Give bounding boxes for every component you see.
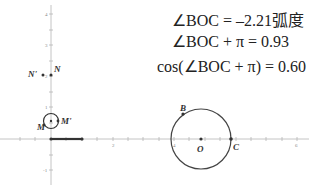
y-tick-label-2: 2 [45,74,48,79]
label-M-prime: M' [60,116,72,126]
formula-angle-plus-pi: ∠BOC + π = 0.93 [172,34,289,50]
point-O[interactable] [199,137,202,140]
point-M-prime[interactable] [57,120,60,123]
geometry-canvas[interactable]: 2 4 6 4 3 2 1 -1 M M' N N' O B C [0,0,309,194]
point-N-prime[interactable] [42,74,45,77]
y-tick-label-4: 4 [45,12,48,17]
label-B: B [179,103,186,113]
y-tick-label-neg1: -1 [43,168,48,173]
formula-angle-boc: ∠BOC = –2.21弧度 [172,13,304,29]
segment-end-point[interactable] [80,137,83,140]
x-tick-label-4: 4 [173,143,176,148]
y-tick-label-1: 1 [45,105,48,110]
label-N: N [53,64,61,74]
y-tick-label-3: 3 [45,43,48,48]
small-circle-center [50,120,52,122]
label-N-prime: N' [27,69,37,79]
point-C[interactable] [229,137,233,141]
label-M: M [36,122,46,132]
formula-cos: cos(∠BOC + π) = 0.60 [157,59,306,75]
label-O: O [197,144,204,154]
label-C: C [233,142,240,152]
x-tick-label-2: 2 [112,143,115,148]
point-N[interactable] [50,74,53,77]
x-tick-label-6: 6 [295,143,298,148]
segment-start-point[interactable] [49,137,52,140]
